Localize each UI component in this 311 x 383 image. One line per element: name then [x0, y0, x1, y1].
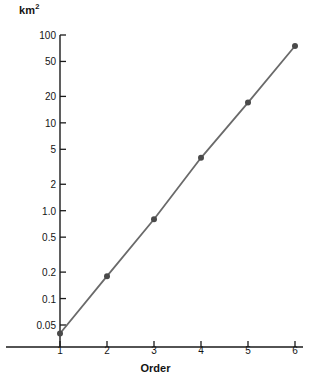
data-series-line: [60, 46, 295, 334]
data-point-marker[interactable]: [104, 273, 110, 279]
data-point-marker[interactable]: [57, 331, 63, 337]
data-point-marker[interactable]: [245, 100, 251, 106]
data-point-marker[interactable]: [198, 155, 204, 161]
data-point-marker[interactable]: [292, 43, 298, 49]
data-point-marker[interactable]: [151, 216, 157, 222]
x-axis-title: Order: [0, 362, 311, 374]
plot-area: [0, 0, 311, 383]
chart-container: km2 0.050.10.20.51.025102050100 123456 O…: [0, 0, 311, 383]
